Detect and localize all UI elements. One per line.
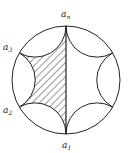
label-a-1: a1 bbox=[62, 140, 71, 151]
label-a-2: a2 bbox=[3, 105, 12, 116]
label-a-n: an bbox=[61, 9, 70, 20]
shaded-region bbox=[20, 26, 67, 134]
hyperbolic-disk-diagram: an a3 a2 a1 bbox=[0, 0, 129, 153]
arc-a1-right-lower bbox=[66, 103, 113, 134]
arc-right-upper-an bbox=[66, 26, 113, 57]
arc-right bbox=[97, 53, 113, 107]
label-a-3: a3 bbox=[3, 42, 12, 53]
